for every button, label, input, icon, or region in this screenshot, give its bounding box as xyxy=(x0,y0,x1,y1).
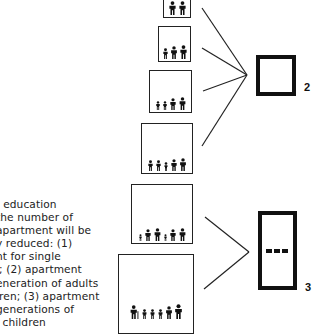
family-figures xyxy=(159,45,190,59)
household-box-6 xyxy=(118,254,194,334)
partition-dash xyxy=(274,249,280,253)
adult-figure-icon xyxy=(178,97,187,110)
household-box-2 xyxy=(158,26,191,62)
family-figures xyxy=(119,304,193,319)
child-figure-icon xyxy=(155,101,161,110)
apartment-type-2-label: 2 xyxy=(304,81,310,93)
caption-line: : education xyxy=(0,198,121,211)
toddler-figure-icon xyxy=(138,234,143,241)
elder-with-cane-figure-icon xyxy=(129,305,140,319)
caption-line: l; (2) apartment xyxy=(0,263,121,276)
family-figures xyxy=(132,228,192,241)
caption-line: the number of xyxy=(0,211,121,224)
child-figure-icon xyxy=(162,48,169,59)
child-figure-icon xyxy=(147,160,154,171)
caption-line: l children xyxy=(0,316,121,329)
caption-line: generations of xyxy=(0,303,121,316)
adult-figure-icon xyxy=(179,45,188,59)
adult-figure-icon xyxy=(169,98,177,110)
adult-figure-icon xyxy=(170,46,178,59)
household-box-4 xyxy=(141,123,193,174)
toddler-figure-icon xyxy=(163,162,169,171)
household-box-1 xyxy=(163,0,191,18)
adult-figure-icon xyxy=(144,229,152,241)
family-figures xyxy=(142,158,192,171)
child-figure-icon xyxy=(141,309,148,319)
adult-figure-icon xyxy=(168,1,177,15)
child-figure-icon xyxy=(162,101,168,110)
adult-figure-icon xyxy=(178,1,187,15)
adult-figure-icon xyxy=(174,304,183,319)
apartment-type-3-label: 3 xyxy=(305,281,311,293)
household-box-3 xyxy=(149,70,192,113)
partition-dash xyxy=(266,249,272,253)
caption-line: lren; (3) apartment xyxy=(0,290,121,303)
child-figure-icon xyxy=(157,309,164,319)
caption-line: eneration of adults xyxy=(0,277,121,290)
adult-figure-icon xyxy=(169,229,177,241)
child-figure-icon xyxy=(149,309,156,319)
apartment-type-2-box xyxy=(256,55,296,96)
family-figures xyxy=(150,97,191,110)
adult-figure-icon xyxy=(179,158,187,171)
adult-figure-icon xyxy=(153,228,162,241)
adult-figure-icon xyxy=(170,159,178,171)
caption-line: apartment will be xyxy=(0,224,121,237)
caption-text: : education the number of apartment will… xyxy=(0,198,121,329)
adult-figure-icon xyxy=(165,306,173,319)
child-figure-icon xyxy=(155,160,162,171)
family-figures xyxy=(164,1,190,15)
adult-figure-icon xyxy=(178,228,187,241)
toddler-figure-icon xyxy=(163,234,168,241)
household-box-5 xyxy=(131,184,193,244)
caption-line: nt for single xyxy=(0,250,121,263)
partition-dash xyxy=(282,249,288,253)
caption-line: y reduced: (1) xyxy=(0,237,121,250)
